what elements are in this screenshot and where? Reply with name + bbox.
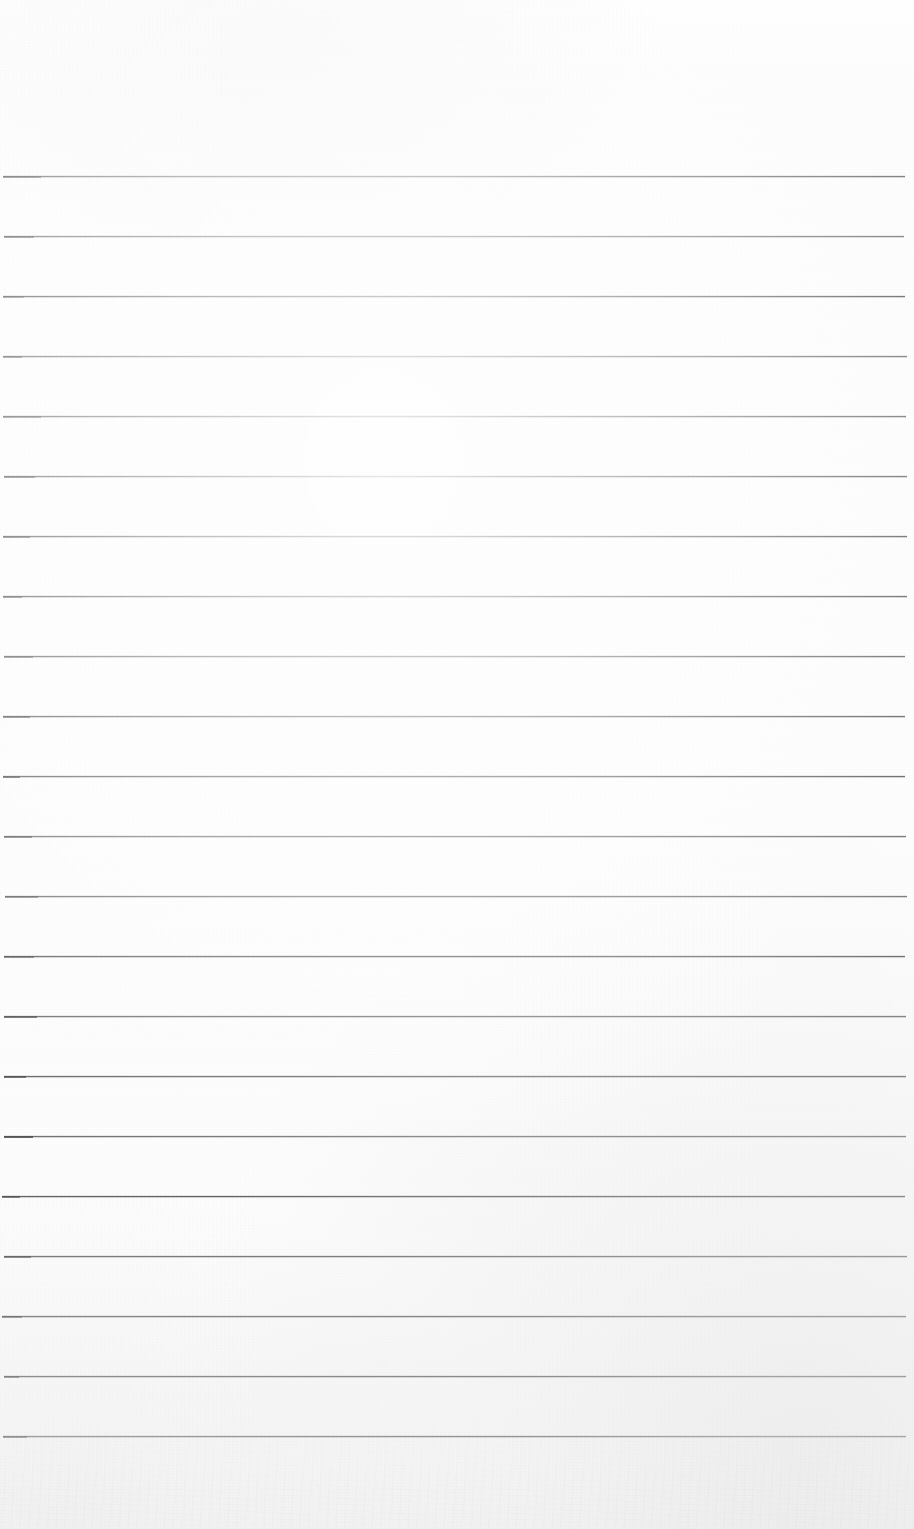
rule-line xyxy=(2,1196,905,1197)
rule-line xyxy=(4,1136,906,1137)
rule-line-start-cap xyxy=(4,1256,31,1258)
rule-line-start-cap xyxy=(5,896,38,898)
rule-line-start-cap xyxy=(3,716,31,718)
rule-line xyxy=(4,236,904,237)
rule-line-start-cap xyxy=(4,1016,37,1018)
rule-line xyxy=(4,1376,906,1377)
rule-line-start-cap xyxy=(4,956,33,958)
rule-line xyxy=(3,416,906,417)
rule-line xyxy=(3,536,907,537)
rule-line-start-cap xyxy=(3,536,30,538)
rule-line-start-cap xyxy=(4,1076,26,1078)
rule-line-start-cap xyxy=(3,1436,27,1438)
rule-line-start-cap xyxy=(4,476,36,478)
rule-line-start-cap xyxy=(3,776,20,778)
rule-line xyxy=(3,176,905,177)
rule-line xyxy=(3,716,905,717)
rule-line xyxy=(3,1436,906,1437)
rule-line xyxy=(3,776,905,777)
rule-line-start-cap xyxy=(3,356,23,358)
rule-line-start-cap xyxy=(3,596,22,598)
rule-line xyxy=(4,1256,907,1257)
rule-line xyxy=(3,596,907,597)
rule-line xyxy=(4,956,905,957)
rule-line xyxy=(3,356,907,357)
rule-line-start-cap xyxy=(3,296,23,298)
rule-line-start-cap xyxy=(3,176,42,178)
ruled-lines-group xyxy=(0,0,914,1529)
rule-line-start-cap xyxy=(2,1316,21,1318)
rule-line-start-cap xyxy=(4,836,32,838)
rule-line xyxy=(3,296,905,297)
rule-line-start-cap xyxy=(4,656,33,658)
rule-line xyxy=(5,896,907,897)
rule-line xyxy=(4,836,906,837)
scanned-page xyxy=(0,0,914,1529)
rule-line-start-cap xyxy=(3,416,41,418)
rule-line-start-cap xyxy=(4,1136,33,1138)
rule-line-start-cap xyxy=(4,1376,19,1378)
rule-line xyxy=(3,476,906,477)
rule-line xyxy=(4,1016,906,1017)
rule-line xyxy=(4,1076,906,1077)
rule-line-start-cap xyxy=(4,236,34,238)
rule-line xyxy=(2,1316,906,1317)
rule-line-start-cap xyxy=(2,1196,19,1198)
rule-line xyxy=(4,656,905,657)
